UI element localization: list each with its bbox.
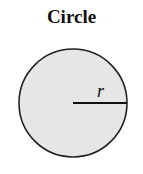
circle-figure: r: [0, 0, 143, 174]
radius-label: r: [97, 81, 105, 101]
